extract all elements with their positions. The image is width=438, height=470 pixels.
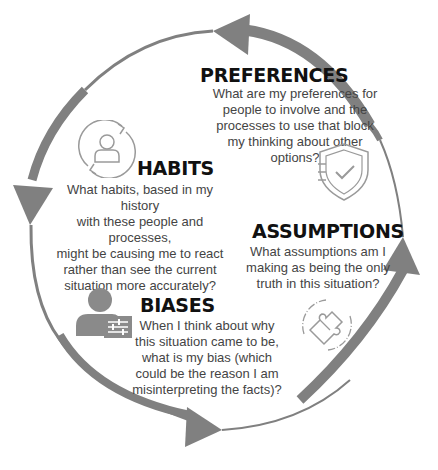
arrow-left-head xyxy=(13,185,53,225)
biases-line: this situation came to be, xyxy=(132,334,282,350)
biases-line: what is my bias (which xyxy=(132,350,282,366)
preferences-line: people to involve and the xyxy=(190,102,400,118)
habits-line: rather than see the current xyxy=(48,262,232,278)
person-cycle-icon xyxy=(78,120,136,178)
habits-title: HABITS xyxy=(137,157,214,179)
habits-line: with these people and processes, xyxy=(48,214,232,246)
assumptions-line: truth in this situation? xyxy=(238,276,398,292)
biases-line: misinterpreting the facts)? xyxy=(132,382,282,398)
person-sliders-icon xyxy=(74,286,134,342)
shield-check-icon xyxy=(312,140,376,204)
assumptions-title: ASSUMPTIONS xyxy=(252,220,404,242)
preferences-title: PREFERENCES xyxy=(200,64,348,86)
arc-top-thin xyxy=(85,31,213,90)
biases-title: BIASES xyxy=(140,294,215,316)
habits-line: What habits, based in my history xyxy=(48,182,232,214)
biases-line: When I think about why xyxy=(132,318,282,334)
assumptions-description: What assumptions am I making as being th… xyxy=(238,244,398,292)
biases-description: When I think about why this situation ca… xyxy=(132,318,282,398)
arrow-bottom-head xyxy=(185,407,222,447)
habits-line: might be causing me to react xyxy=(48,246,232,262)
assumptions-line: What assumptions am I xyxy=(238,244,398,260)
biases-line: could be the reason I am xyxy=(132,366,282,382)
preferences-line: processes to use that block xyxy=(190,118,400,134)
habits-description: What habits, based in my history with th… xyxy=(48,182,232,294)
arrow-top-head xyxy=(213,14,250,55)
puzzle-icon xyxy=(296,294,358,356)
preferences-line: What are my preferences for xyxy=(190,86,400,102)
assumptions-line: making as being the only xyxy=(238,260,398,276)
